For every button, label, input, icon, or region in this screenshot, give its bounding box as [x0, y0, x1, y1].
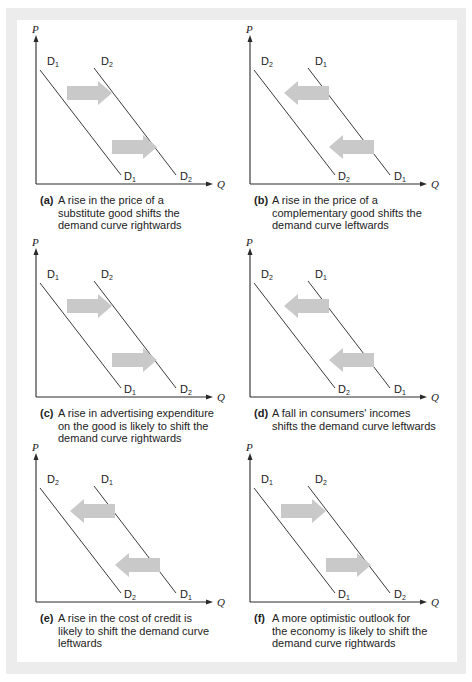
panel-tag: (c)	[40, 407, 53, 420]
panel-caption: (c) A rise in advertising expenditureon …	[40, 407, 240, 445]
y-axis-label: P	[31, 236, 39, 248]
right-arrow-icon	[112, 135, 157, 159]
panel-tag: (b)	[254, 194, 268, 207]
right-curve-bottom-label: D2	[394, 588, 406, 601]
right-curve-top-label: D1	[101, 473, 113, 486]
left-arrow-icon	[284, 294, 329, 318]
shift-right-arrows	[67, 294, 157, 372]
caption-line: shifts the demand curve leftwards	[272, 420, 454, 433]
panel-tag: (e)	[40, 612, 53, 625]
x-axis-arrowhead-icon	[206, 600, 213, 605]
x-axis-label: Q	[217, 596, 225, 608]
x-axis-arrowhead-icon	[420, 182, 427, 187]
panel-caption: (f) A more optimistic outlook forthe eco…	[254, 612, 454, 650]
caption-line: A rise in the price of a	[272, 194, 454, 207]
left-curve-top-label: D2	[261, 268, 273, 281]
caption-line: on the good is likely to shift the	[58, 420, 240, 433]
right-curve-top-label: D1	[315, 268, 327, 281]
left-arrow-icon	[115, 553, 160, 577]
left-curve-top-label: D2	[261, 55, 273, 68]
y-axis-label: P	[245, 236, 253, 248]
right-curve-bottom-label: D1	[394, 170, 406, 183]
left-curve-bottom-label: D1	[124, 383, 136, 396]
caption-line: A rise in the cost of credit is	[58, 612, 240, 625]
right-curve-top-label: D2	[315, 473, 327, 486]
right-curve-top-label: D1	[315, 55, 327, 68]
right-curve-bottom-label: D2	[180, 170, 192, 183]
left-curve-top-label: D1	[261, 473, 273, 486]
right-arrow-icon	[326, 553, 371, 577]
left-curve-top-label: D1	[47, 268, 59, 281]
y-axis-label: P	[31, 441, 39, 453]
left-demand-curve	[40, 283, 121, 388]
left-curve-bottom-label: D2	[338, 383, 350, 396]
right-curve-top-label: D2	[101, 268, 113, 281]
y-axis-label: P	[31, 23, 39, 35]
panel-caption: (b) A rise in the price of acomplementar…	[254, 194, 454, 232]
demand-shift-panel-b: P Q D2 D1 D2 D1 (b) A rise in the price …	[240, 30, 454, 230]
demand-shift-panel-e: P Q D2 D1 D2 D1 (e) A rise in the cost o…	[26, 448, 240, 648]
caption-line: A rise in advertising expenditure	[58, 407, 240, 420]
x-axis-arrowhead-icon	[206, 182, 213, 187]
right-demand-curve	[308, 281, 390, 388]
caption-line: demand curve leftwards	[272, 219, 454, 232]
demand-shift-panel-a: P Q D1 D2 D1 D2 (a) A rise in the price …	[26, 30, 240, 230]
demand-shift-panel-f: P Q D1 D2 D1 D2 (f) A more optimistic ou…	[240, 448, 454, 648]
caption-line: leftwards	[58, 637, 240, 650]
caption-line: substitute good shifts the	[58, 207, 240, 220]
y-axis-label: P	[245, 441, 253, 453]
x-axis-arrowhead-icon	[420, 395, 427, 400]
left-curve-bottom-label: D2	[338, 170, 350, 183]
right-arrow-icon	[67, 81, 112, 105]
left-demand-curve	[40, 70, 121, 175]
right-demand-curve	[308, 68, 390, 175]
shift-left-arrows	[284, 294, 374, 372]
y-axis-arrowhead-icon	[248, 35, 253, 42]
x-axis-label: Q	[431, 596, 439, 608]
right-curve-bottom-label: D1	[394, 383, 406, 396]
caption-line: A rise in the price of a	[58, 194, 240, 207]
panel-caption: (e) A rise in the cost of credit islikel…	[40, 612, 240, 650]
right-curve-bottom-label: D2	[180, 383, 192, 396]
right-arrow-icon	[112, 348, 157, 372]
y-axis-arrowhead-icon	[34, 248, 39, 255]
caption-line: A fall in consumers' incomes	[272, 407, 454, 420]
demand-shift-panel-c: P Q D1 D2 D1 D2 (c) A rise in advertisin…	[26, 243, 240, 443]
y-axis-arrowhead-icon	[34, 35, 39, 42]
right-demand-curve	[94, 68, 176, 175]
caption-line: the economy is likely to shift the	[272, 625, 454, 638]
y-axis-arrowhead-icon	[248, 453, 253, 460]
caption-line: demand curve rightwards	[58, 432, 240, 445]
shift-right-arrows	[67, 81, 157, 159]
y-axis-label: P	[245, 23, 253, 35]
left-demand-curve	[254, 488, 335, 593]
left-curve-top-label: D2	[47, 473, 59, 486]
left-arrow-icon	[70, 499, 115, 523]
right-demand-curve	[94, 486, 176, 593]
right-demand-curve	[308, 486, 390, 593]
panel-tag: (a)	[40, 194, 53, 207]
x-axis-arrowhead-icon	[206, 395, 213, 400]
right-demand-curve	[94, 281, 176, 388]
right-arrow-icon	[67, 294, 112, 318]
demand-shift-panel-d: P Q D2 D1 D2 D1 (d) A fall in consumers'…	[240, 243, 454, 443]
caption-line: demand curve rightwards	[58, 219, 240, 232]
caption-line: demand curve rightwards	[272, 637, 454, 650]
x-axis-label: Q	[217, 178, 225, 190]
x-axis-label: Q	[431, 391, 439, 403]
y-axis-arrowhead-icon	[34, 453, 39, 460]
left-arrow-icon	[329, 135, 374, 159]
shift-left-arrows	[284, 81, 374, 159]
panel-caption: (a) A rise in the price of asubstitute g…	[40, 194, 240, 232]
panel-tag: (d)	[254, 407, 268, 420]
shift-left-arrows	[70, 499, 160, 577]
left-curve-bottom-label: D1	[124, 170, 136, 183]
right-curve-bottom-label: D1	[180, 588, 192, 601]
shift-right-arrows	[281, 499, 371, 577]
x-axis-label: Q	[431, 178, 439, 190]
panel-tag: (f)	[254, 612, 265, 625]
x-axis-arrowhead-icon	[420, 600, 427, 605]
x-axis-label: Q	[217, 391, 225, 403]
left-curve-bottom-label: D2	[124, 588, 136, 601]
left-arrow-icon	[329, 348, 374, 372]
